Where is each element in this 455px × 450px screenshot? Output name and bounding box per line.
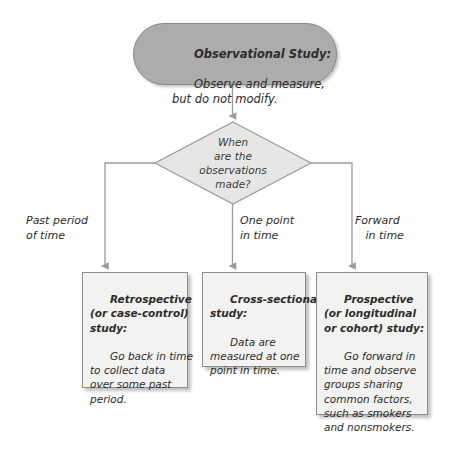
- prospective-body-text: Go forward in time and observe groups sh…: [324, 350, 416, 433]
- node-observational-study-heading: Observational Study: Observe and measure…: [172, 32, 331, 122]
- prospective-heading-text: Prospective (or longitudinal or cohort) …: [324, 293, 424, 333]
- edge-label-one-point: One point in time: [240, 214, 294, 243]
- edge-label-past-period: Past period of time: [26, 214, 88, 243]
- node-prospective-study: Prospective (or longitudinal or cohort) …: [316, 272, 428, 415]
- node-decision: When are the observations made?: [155, 122, 311, 204]
- node-cross-sectional-study: Cross-sectional study: Data are measured…: [202, 272, 306, 367]
- retrospective-body-text: Go back in time to collect data over som…: [90, 350, 193, 405]
- decision-question-text: When are the observations made?: [155, 135, 311, 191]
- retrospective-heading-text: Retrospective (or case-control) study:: [90, 293, 192, 333]
- prospective-text: Prospective (or longitudinal or cohort) …: [324, 278, 423, 448]
- retrospective-text: Retrospective (or case-control) study: G…: [90, 278, 183, 420]
- connector-decision-to-retrospective: [105, 163, 155, 266]
- connector-decision-to-prospective: [311, 163, 352, 266]
- node-observational-study: Observational Study: Observe and measure…: [133, 23, 337, 85]
- node-retrospective-study: Retrospective (or case-control) study: G…: [82, 272, 188, 388]
- edge-label-forward: Forward in time: [355, 214, 404, 243]
- observational-study-heading-text: Observational Study:: [194, 47, 331, 61]
- flowchart-diagram: Observational Study: Observe and measure…: [0, 0, 455, 450]
- cross-sectional-heading-text: Cross-sectional study:: [210, 293, 321, 319]
- cross-sectional-body-text: Data are measured at one point in time.: [210, 336, 299, 376]
- observational-study-body-text: Observe and measure, but do not modify.: [172, 77, 325, 106]
- cross-sectional-text: Cross-sectional study: Data are measured…: [210, 278, 301, 392]
